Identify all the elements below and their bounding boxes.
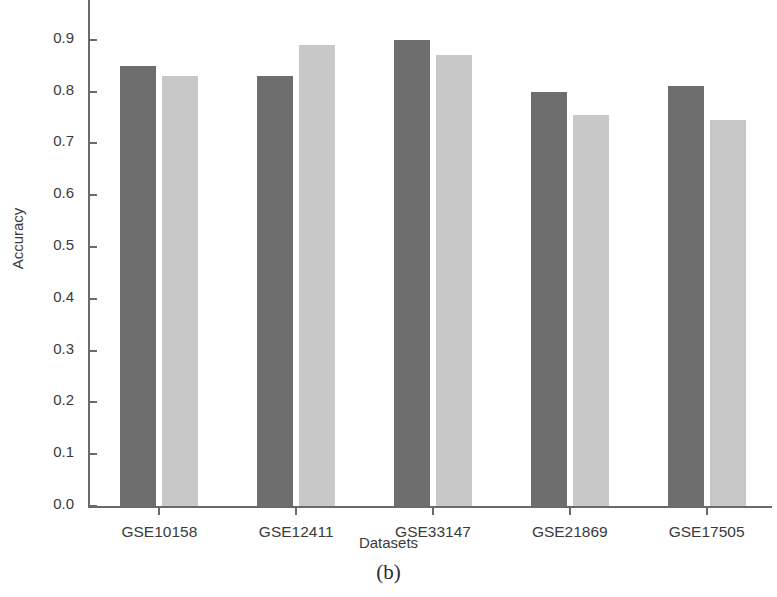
y-axis-spine	[88, 0, 90, 508]
bar	[257, 76, 293, 506]
y-tick-mark	[88, 350, 97, 352]
x-axis-spine	[88, 506, 772, 508]
y-tick-mark	[88, 401, 97, 403]
y-tick-label: 0.1	[53, 443, 74, 460]
y-tick-label: 0.7	[53, 132, 74, 149]
y-tick-mark	[88, 194, 97, 196]
bar	[573, 115, 609, 506]
y-tick-label: 0.4	[53, 288, 74, 305]
bar	[668, 86, 704, 506]
figure-panel-b: Accuracy 0.00.10.20.30.40.50.60.70.80.91…	[0, 0, 777, 597]
x-tick-mark	[569, 508, 571, 515]
bar	[394, 40, 430, 506]
y-tick-mark	[88, 453, 97, 455]
figure-caption: (b)	[0, 560, 777, 585]
x-tick-mark	[432, 508, 434, 515]
y-tick-label: 0.2	[53, 391, 74, 408]
plot-area: 0.00.10.20.30.40.50.60.70.80.91.0 GSE101…	[88, 0, 772, 508]
bar	[162, 76, 198, 506]
y-tick-mark	[88, 246, 97, 248]
y-tick-mark	[88, 142, 97, 144]
x-tick-mark	[158, 508, 160, 515]
y-tick-label: 0.9	[53, 29, 74, 46]
y-tick-label: 0.5	[53, 236, 74, 253]
y-tick-mark	[88, 505, 97, 507]
bar	[531, 92, 567, 506]
y-tick-label: 0.8	[53, 81, 74, 98]
y-axis-title: Accuracy	[9, 199, 26, 279]
bar	[120, 66, 156, 506]
bar	[710, 120, 746, 506]
x-tick-mark	[295, 508, 297, 515]
y-tick-mark	[88, 298, 97, 300]
bar	[436, 55, 472, 506]
y-tick-label: 0.3	[53, 340, 74, 357]
y-tick-mark	[88, 39, 97, 41]
x-axis-title: Datasets	[0, 534, 777, 551]
x-tick-mark	[706, 508, 708, 515]
y-tick-label: 0.6	[53, 184, 74, 201]
y-tick-mark	[88, 91, 97, 93]
y-tick-label: 0.0	[53, 495, 74, 512]
bar	[299, 45, 335, 506]
